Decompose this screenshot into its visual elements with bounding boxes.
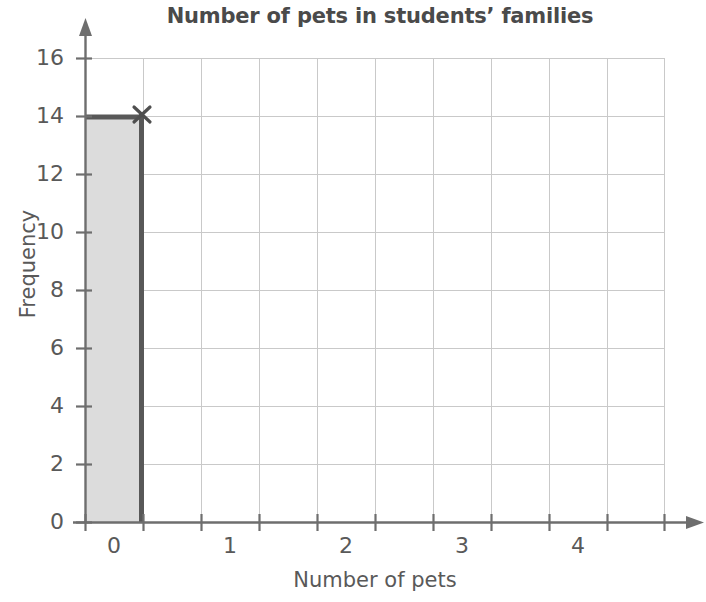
- arrow-right-icon: [686, 516, 704, 529]
- xtick-label-1: 1: [201, 535, 259, 557]
- xtick-label-0: 0: [85, 535, 143, 557]
- ytick-label-2: 2: [22, 453, 64, 475]
- bar-series: [85, 114, 142, 522]
- x-axis-title: Number of pets: [85, 568, 665, 592]
- chart-canvas: Number of pets in students’ families: [0, 0, 706, 602]
- xtick-label-2: 2: [317, 535, 375, 557]
- bar-category-0-fill[interactable]: [85, 116, 142, 522]
- xtick-label-4: 4: [549, 535, 607, 557]
- plot-area: [0, 0, 706, 602]
- y-axis-title: Frequency: [16, 174, 40, 354]
- ytick-label-4: 4: [22, 395, 64, 417]
- arrow-up-icon: [79, 18, 92, 36]
- ytick-label-16: 16: [22, 47, 64, 69]
- x-axis: [73, 516, 704, 529]
- xtick-label-3: 3: [433, 535, 491, 557]
- ytick-label-0: 0: [22, 511, 64, 533]
- ytick-label-14: 14: [22, 105, 64, 127]
